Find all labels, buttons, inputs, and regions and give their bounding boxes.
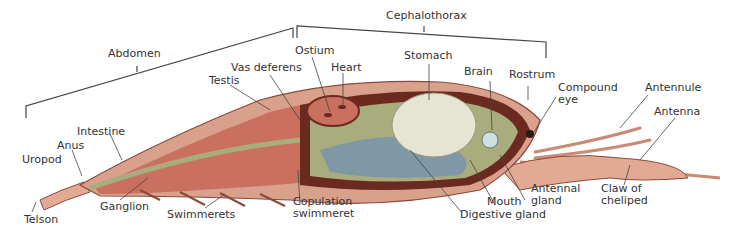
label-mouth: Mouth [487, 196, 521, 208]
label-ostium: Ostium [295, 45, 334, 57]
label-heart: Heart [331, 62, 362, 74]
label-stomach: Stomach [404, 50, 453, 62]
label-swimmerets: Swimmerets [167, 209, 235, 221]
label-antennal-gland: Antennalgland [531, 183, 580, 207]
anatomy-diagram: Abdomen Cephalothorax Ostium Vas deferen… [0, 0, 744, 236]
label-antenna: Antenna [654, 106, 700, 118]
label-intestine: Intestine [77, 126, 125, 138]
label-rostrum: Rostrum [509, 69, 555, 81]
label-copulation-swimmeret: Copulationswimmeret [293, 196, 354, 220]
label-cephalothorax: Cephalothorax [386, 10, 467, 22]
label-antennule: Antennule [645, 82, 701, 94]
label-anus: Anus [57, 140, 84, 152]
label-abdomen: Abdomen [108, 48, 161, 60]
label-brain: Brain [464, 66, 493, 78]
label-vas-deferens: Vas deferens [231, 62, 302, 74]
label-claw-of-cheliped: Claw ofcheliped [601, 183, 648, 207]
label-telson: Telson [24, 214, 58, 226]
label-testis: Testis [209, 75, 239, 87]
label-compound-eye: Compoundeye [558, 82, 618, 106]
label-digestive-gland: Digestive gland [460, 209, 546, 221]
label-ganglion: Ganglion [100, 201, 149, 213]
label-uropod: Uropod [22, 154, 62, 166]
